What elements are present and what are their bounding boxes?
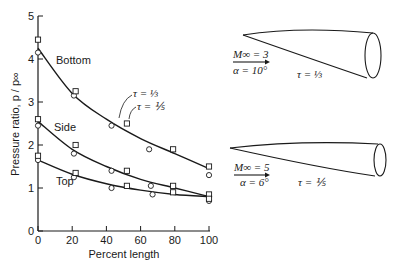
x-tick-label: 100 <box>200 234 218 246</box>
x-tick-label: 60 <box>134 234 146 246</box>
y-tick-label: 5 <box>28 10 34 22</box>
curve-label-top: Top <box>56 175 74 187</box>
x-axis-ticks: 020406080100 <box>35 226 218 246</box>
figure: 012345 020406080100 Percent length Press… <box>0 0 399 271</box>
x-tick-label: 0 <box>35 234 41 246</box>
data-point-square <box>170 183 175 188</box>
diagram-1-mach: M∞ = 3 <box>232 48 269 60</box>
data-point-square <box>124 121 129 126</box>
data-point-square <box>73 89 78 94</box>
y-axis-label: Pressure ratio, p / p∞ <box>9 72 21 176</box>
x-axis-label: Percent length <box>89 248 160 260</box>
data-point-square <box>73 142 78 147</box>
data-point-square <box>35 37 40 42</box>
data-point-square <box>73 170 78 175</box>
x-tick-label: 80 <box>169 234 181 246</box>
annotation-tau-fifth: τ = ⅕ <box>137 100 165 112</box>
data-point-square <box>170 190 175 195</box>
data-point-circle <box>109 168 114 173</box>
annotation-tau-third: τ = ⅓ <box>133 87 159 99</box>
x-tick-label: 20 <box>66 234 78 246</box>
data-point-circle <box>206 173 211 178</box>
diagram-1-alpha: α = 10° <box>233 64 268 76</box>
data-point-square <box>170 147 175 152</box>
data-point-circle <box>147 147 152 152</box>
data-point-circle <box>71 151 76 156</box>
annotation-arrow-2 <box>129 107 136 119</box>
curve-label-side: Side <box>54 121 76 133</box>
curve-label-bottom: Bottom <box>56 54 91 66</box>
fit-curve-bottom <box>38 48 209 168</box>
data-point-circle <box>35 50 40 55</box>
data-point-square <box>35 153 40 158</box>
data-point-circle <box>109 123 114 128</box>
data-point-square <box>206 164 211 169</box>
data-point-square <box>124 183 129 188</box>
y-tick-label: 4 <box>28 53 34 65</box>
data-point-circle <box>150 192 155 197</box>
data-point-square <box>206 196 211 201</box>
y-tick-label: 0 <box>28 225 34 237</box>
diagram-2-mach: M∞ = 5 <box>233 161 270 173</box>
x-tick-label: 40 <box>100 234 112 246</box>
y-tick-label: 2 <box>28 139 34 151</box>
y-tick-label: 3 <box>28 96 34 108</box>
data-point-circle <box>109 185 114 190</box>
diagram-1-tau: τ = ⅓ <box>297 68 323 80</box>
data-point-square <box>35 117 40 122</box>
data-point-square <box>124 168 129 173</box>
diagram-2-alpha: α = 6° <box>240 176 269 188</box>
diagram-2-tau: τ = ⅕ <box>298 176 326 188</box>
y-tick-label: 1 <box>28 182 34 194</box>
data-point-circle <box>35 123 40 128</box>
data-point-circle <box>148 183 153 188</box>
